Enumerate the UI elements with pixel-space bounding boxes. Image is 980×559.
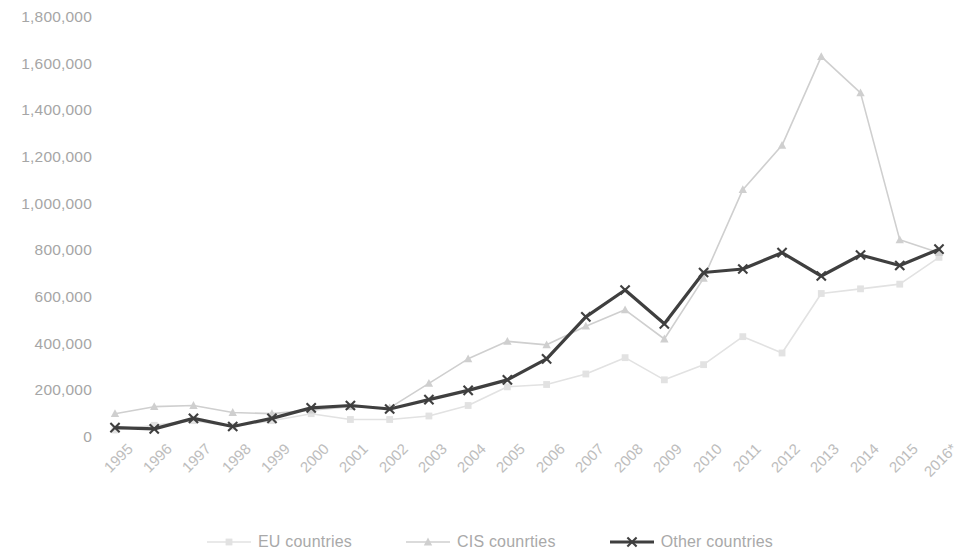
y-axis-tick-label: 1,600,000 bbox=[21, 55, 92, 73]
x-axis-tick-label: 2009 bbox=[650, 440, 686, 476]
data-point-marker bbox=[620, 285, 629, 294]
data-point-marker bbox=[896, 235, 904, 243]
data-point-marker bbox=[426, 413, 433, 420]
data-point-marker bbox=[425, 379, 433, 387]
data-point-marker bbox=[817, 52, 825, 60]
data-point-marker bbox=[700, 361, 707, 368]
x-axis-tick-label: 2012 bbox=[767, 440, 803, 476]
legend-label: EU countries bbox=[258, 533, 352, 551]
x-axis-tick-label: 2016* bbox=[920, 440, 960, 480]
y-axis-tick-label: 200,000 bbox=[35, 381, 92, 399]
data-point-marker bbox=[739, 333, 746, 340]
y-axis-tick-label: 800,000 bbox=[35, 241, 92, 259]
plot-area bbox=[105, 8, 965, 438]
x-axis-tick-label: 2001 bbox=[336, 440, 372, 476]
data-point-marker bbox=[386, 416, 393, 423]
x-axis-tick-label: 2010 bbox=[689, 440, 725, 476]
data-point-marker bbox=[347, 416, 354, 423]
y-axis-tick-label: 1,200,000 bbox=[21, 148, 92, 166]
other-countries-key bbox=[610, 535, 654, 549]
x-axis-tick-label: 2005 bbox=[493, 440, 529, 476]
eu-countries-key bbox=[207, 535, 251, 549]
x-axis: 1995199619971998199920002001200220032004… bbox=[105, 440, 965, 510]
x-axis-tick-label: 2011 bbox=[729, 440, 764, 475]
y-axis-tick-label: 400,000 bbox=[35, 335, 92, 353]
x-axis-tick-label: 2006 bbox=[532, 440, 568, 476]
x-axis-tick-label: 2000 bbox=[297, 440, 333, 476]
data-point-marker bbox=[226, 538, 233, 545]
legend-item-cis-counrties[interactable]: CIS counrties bbox=[406, 533, 556, 551]
legend-item-eu-countries[interactable]: EU countries bbox=[207, 533, 352, 551]
x-axis-tick-label: 1996 bbox=[140, 440, 176, 476]
series-line bbox=[115, 57, 939, 414]
data-point-marker bbox=[622, 354, 629, 361]
x-axis-tick-label: 1999 bbox=[257, 440, 293, 476]
cis-countries-key bbox=[406, 535, 450, 549]
x-axis-tick-label: 2013 bbox=[807, 440, 843, 476]
data-point-marker bbox=[896, 281, 903, 288]
series-line bbox=[115, 249, 939, 429]
data-point-marker bbox=[543, 381, 550, 388]
data-point-marker bbox=[582, 371, 589, 378]
y-axis-tick-label: 1,800,000 bbox=[21, 8, 92, 26]
x-axis-tick-label: 2015 bbox=[885, 440, 921, 476]
data-point-marker bbox=[504, 383, 511, 390]
y-axis-tick-label: 0 bbox=[83, 428, 92, 446]
legend-label: Other countries bbox=[661, 533, 773, 551]
x-axis-tick-label: 2003 bbox=[414, 440, 450, 476]
x-axis-tick-label: 2004 bbox=[454, 440, 490, 476]
data-point-marker bbox=[818, 290, 825, 297]
legend-item-other-countries[interactable]: Other countries bbox=[610, 533, 773, 551]
data-point-marker bbox=[621, 305, 629, 313]
data-point-marker bbox=[661, 376, 668, 383]
x-axis-tick-label: 1995 bbox=[100, 440, 136, 476]
x-axis-tick-label: 1998 bbox=[218, 440, 254, 476]
line-chart: 0200,000400,000600,000800,0001,000,0001,… bbox=[0, 0, 980, 559]
data-point-marker bbox=[779, 350, 786, 357]
x-axis-tick-label: 2007 bbox=[571, 440, 607, 476]
data-point-marker bbox=[581, 312, 590, 321]
x-axis-tick-label: 2002 bbox=[375, 440, 411, 476]
x-axis-tick-label: 2008 bbox=[610, 440, 646, 476]
y-axis-tick-label: 1,400,000 bbox=[21, 101, 92, 119]
data-point-marker bbox=[778, 141, 786, 149]
y-axis-tick-label: 1,000,000 bbox=[21, 195, 92, 213]
data-point-marker bbox=[465, 402, 472, 409]
legend-label: CIS counrties bbox=[457, 533, 556, 551]
data-point-marker bbox=[660, 319, 669, 328]
y-axis-tick-label: 600,000 bbox=[35, 288, 92, 306]
x-axis-tick-label: 2014 bbox=[846, 440, 882, 476]
series-cis-counrties bbox=[111, 52, 943, 417]
y-axis: 0200,000400,000600,000800,0001,000,0001,… bbox=[0, 0, 100, 450]
x-axis-tick-label: 1997 bbox=[179, 440, 215, 476]
series-canvas bbox=[105, 8, 965, 438]
chart-legend: EU countriesCIS counrtiesOther countries bbox=[0, 524, 980, 559]
series-other-countries bbox=[110, 245, 943, 434]
data-point-marker bbox=[857, 285, 864, 292]
